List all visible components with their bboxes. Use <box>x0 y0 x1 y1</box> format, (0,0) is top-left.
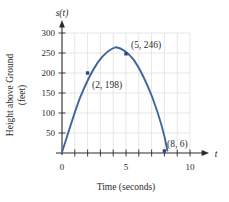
xtick-label-5: 5 <box>124 162 129 172</box>
chart-svg: (2, 198) (5, 246) (8, 6) 300 250 200 150… <box>0 0 229 202</box>
annotation-point-5-246: (5, 246) <box>131 40 161 51</box>
ytick-label-250: 250 <box>42 48 56 58</box>
y-axis-symbol-label: s(t) <box>56 8 69 19</box>
x-axis-title: Time (seconds) <box>97 182 156 193</box>
y-axis-title-line2: (feet) <box>17 85 28 106</box>
marker-point-5-246 <box>124 52 127 55</box>
projectile-height-chart: (2, 198) (5, 246) (8, 6) 300 250 200 150… <box>0 0 229 202</box>
marker-point-2-198 <box>86 71 89 74</box>
ytick-label-100: 100 <box>42 108 56 118</box>
annotation-point-8-6: (8, 6) <box>167 139 188 150</box>
ytick-label-150: 150 <box>42 88 56 98</box>
ytick-label-50: 50 <box>46 128 56 138</box>
ytick-label-200: 200 <box>42 68 56 78</box>
ytick-label-300: 300 <box>42 28 56 38</box>
y-axis-title-line1: Height above Ground <box>5 54 15 137</box>
x-axis-symbol-label: t <box>215 149 218 159</box>
annotation-point-2-198: (2, 198) <box>92 80 122 91</box>
y-axis-arrowhead <box>59 20 65 27</box>
xtick-label-10: 10 <box>186 162 196 172</box>
x-axis-arrowhead <box>202 150 209 156</box>
marker-point-8-6 <box>163 149 166 152</box>
xtick-label-0: 0 <box>60 162 65 172</box>
